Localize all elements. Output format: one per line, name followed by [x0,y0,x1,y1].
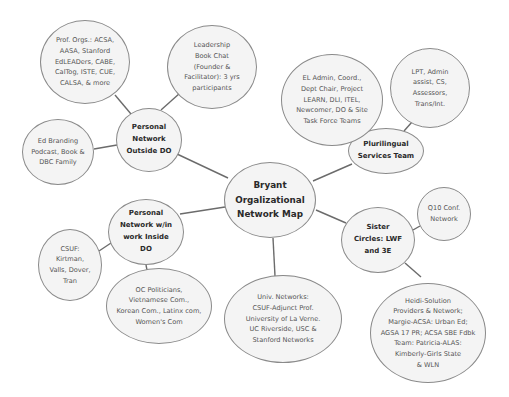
node-univ-networks: Univ. Networks: CSUF-Adjunct Prof. Unive… [224,275,342,363]
node-label: Prof. Orgs.: ACSA, AASA, Stanford EdLEAD… [55,35,115,88]
node-label: Leadership Book Chat (Founder & Facilita… [184,40,240,93]
node-label: Plurilingual Services Team [358,139,414,163]
edge-sister-circles-to-heidi [405,263,421,277]
edge-personal-outside-to-prof-orgs [115,95,131,114]
node-label: Personal Network Outside DO [127,122,172,158]
edge-personal-inside-to-csuf [99,243,111,251]
node-label: Univ. Networks: CSUF-Adjunct Prof. Unive… [246,292,321,345]
node-label: Heidi-Solution Providers & Network; Marg… [381,296,476,371]
node-label: Personal Network w/in work Inside DO [120,208,172,256]
node-q10: Q10 Conf. Network [417,187,471,241]
edge-sister-circles-to-q10 [413,226,420,230]
node-label: Ed Branding Podcast, Book & DBC Family [31,136,85,168]
node-ed-branding: Ed Branding Podcast, Book & DBC Family [22,119,94,185]
node-label: Q10 Conf. Network [428,203,460,224]
edge-personal-outside-to-ed-branding [94,145,117,149]
network-map-canvas: Bryant Orgalizational Network MapPersona… [0,0,509,397]
node-label: Bryant Orgalizational Network Map [235,178,305,222]
node-prof-orgs: Prof. Orgs.: ACSA, AASA, Stanford EdLEAD… [40,20,130,104]
node-label: OC Politicians, Vietnamese Com., Korean … [117,285,202,328]
node-label: CSUF: Kirtman, Valls, Dover, Tran [49,244,90,287]
edge-root-to-personal-inside [180,207,225,214]
node-personal-inside: Personal Network w/in work Inside DO [108,199,184,265]
node-label: EL Admin, Coord., Dept Chair, Project LE… [296,73,368,126]
node-oc-politicians: OC Politicians, Vietnamese Com., Korean … [106,268,212,344]
edge-root-to-univ-networks [273,238,275,276]
edge-root-to-personal-outside [177,154,228,178]
edge-root-to-plurilingual [313,164,352,181]
node-el-admin: EL Admin, Coord., Dept Chair, Project LE… [281,54,383,146]
node-personal-outside: Personal Network Outside DO [116,108,182,172]
edge-root-to-sister-circles [316,210,346,223]
node-book-chat: Leadership Book Chat (Founder & Facilita… [167,25,257,109]
node-label: LPT, Admin assist, CS, Assessors, Trans/… [412,67,449,110]
node-heidi: Heidi-Solution Providers & Network; Marg… [370,283,486,383]
node-label: Sister Circles: LWF and 3E [354,222,402,258]
node-root: Bryant Orgalizational Network Map [224,162,316,238]
edge-personal-outside-to-book-chat [161,93,180,110]
node-sister-circles: Sister Circles: LWF and 3E [341,207,415,273]
node-csuf: CSUF: Kirtman, Valls, Dover, Tran [38,229,102,301]
node-lpt: LPT, Admin assist, CS, Assessors, Trans/… [390,48,470,128]
